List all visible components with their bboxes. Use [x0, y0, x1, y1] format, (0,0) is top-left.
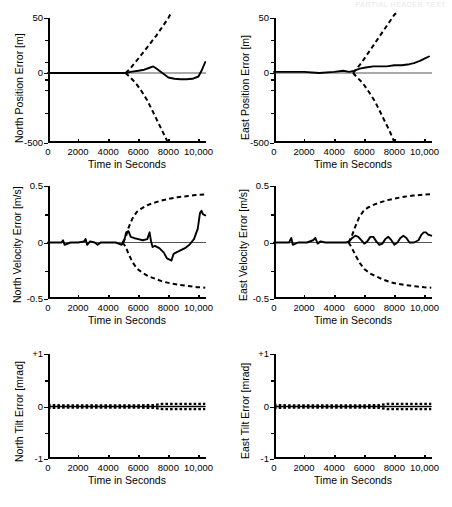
y-axis-title: North Velocity Error [m/s]	[12, 186, 23, 303]
x-tick-label: 4000	[324, 303, 345, 313]
y-tick-label: 0	[38, 68, 43, 78]
x-tick-label: 8000	[158, 147, 179, 157]
x-axis-title: Time in Seconds	[274, 315, 432, 326]
y-tick	[270, 243, 275, 244]
series-plus-sigma	[126, 13, 172, 74]
series-minus-sigma	[348, 243, 431, 288]
x-tick-label: 4000	[98, 463, 119, 473]
series-minus-sigma	[48, 408, 205, 410]
chart-canvas-east-tilt	[274, 354, 432, 459]
x-tick-label: 10,000	[184, 147, 213, 157]
x-tick-label: 6000	[354, 303, 375, 313]
x-tick-label: 8000	[158, 463, 179, 473]
x-tick	[304, 139, 305, 144]
x-tick	[168, 139, 169, 144]
plot-area-north-velocity: Time in Seconds North Velocity Error [m/…	[48, 186, 206, 299]
x-tick	[424, 139, 425, 144]
y-tick-label: -500	[250, 138, 269, 148]
x-tick-label: 2000	[68, 303, 89, 313]
x-tick	[334, 295, 335, 300]
y-tick-label: 0.5	[256, 181, 269, 191]
y-tick-label: -1	[261, 454, 269, 464]
plot-area-north-tilt: Time in Seconds North Tilt Error [mrad] …	[48, 354, 206, 459]
x-tick-label: 0	[45, 463, 50, 473]
y-tick-minor	[271, 62, 275, 63]
x-axis-title: Time in Seconds	[48, 315, 206, 326]
y-tick-minor	[271, 271, 275, 272]
x-tick	[424, 295, 425, 300]
series-minus-sigma	[274, 408, 431, 410]
y-tick-minor	[45, 271, 49, 272]
x-tick	[138, 139, 139, 144]
x-tick	[394, 139, 395, 144]
y-tick-minor	[271, 113, 275, 114]
y-tick-label: 0	[38, 238, 43, 248]
y-axis-title: East Tilt Error [mrad]	[240, 363, 251, 459]
x-tick-label: 10,000	[184, 463, 213, 473]
y-tick-minor	[45, 79, 49, 80]
plot-area-north-position: Time in Seconds North Position Error [m]…	[48, 18, 206, 143]
y-tick	[270, 459, 275, 460]
x-tick-label: 4000	[98, 147, 119, 157]
x-tick-label: 0	[45, 303, 50, 313]
x-tick	[394, 295, 395, 300]
x-tick	[108, 455, 109, 460]
y-tick-label: 0.5	[30, 181, 43, 191]
y-tick-minor	[45, 113, 49, 114]
y-tick-label: -0.5	[27, 294, 43, 304]
series-minus-sigma	[353, 73, 396, 143]
x-tick	[168, 455, 169, 460]
x-tick	[78, 295, 79, 300]
series-minus-sigma	[126, 73, 170, 143]
x-tick-label: 8000	[384, 147, 405, 157]
series-error	[48, 62, 205, 79]
x-tick	[108, 295, 109, 300]
y-tick-label: -1	[35, 454, 43, 464]
panel-east-velocity-error: Time in Seconds East Velocity Error [m/s…	[226, 168, 452, 338]
x-tick-label: 0	[271, 147, 276, 157]
x-tick	[364, 139, 365, 144]
x-tick	[48, 139, 49, 144]
y-tick-label: 0	[264, 68, 269, 78]
y-tick-minor	[45, 90, 49, 91]
x-tick-label: 10,000	[410, 463, 439, 473]
x-tick-label: 2000	[68, 463, 89, 473]
x-tick	[424, 455, 425, 460]
x-tick	[108, 139, 109, 144]
series-error	[274, 57, 429, 74]
x-tick-label: 8000	[384, 303, 405, 313]
plot-area-east-tilt: Time in Seconds East Tilt Error [mrad] +…	[274, 354, 432, 459]
x-tick-label: 6000	[128, 463, 149, 473]
y-tick-label: 50	[258, 13, 269, 23]
chart-canvas-east-position	[274, 18, 432, 143]
x-tick-label: 2000	[294, 463, 315, 473]
x-tick-label: 6000	[128, 303, 149, 313]
x-axis-title: Time in Seconds	[48, 475, 206, 486]
y-tick	[44, 299, 49, 300]
chart-canvas-north-position	[48, 18, 206, 143]
x-tick-label: 10,000	[410, 303, 439, 313]
y-tick-minor	[45, 433, 49, 434]
x-tick	[198, 455, 199, 460]
y-tick-label: 50	[32, 13, 43, 23]
x-tick-label: 4000	[324, 463, 345, 473]
y-tick	[44, 243, 49, 244]
x-tick	[334, 455, 335, 460]
x-tick	[78, 455, 79, 460]
y-tick-label: +1	[32, 349, 43, 359]
y-tick	[44, 186, 49, 187]
y-tick-minor	[45, 214, 49, 215]
y-tick-minor	[271, 79, 275, 80]
y-axis-title: North Position Error [m]	[14, 33, 25, 143]
y-tick-minor	[45, 380, 49, 381]
y-tick-label: -500	[24, 138, 43, 148]
x-tick-label: 10,000	[184, 303, 213, 313]
series-plus-sigma	[48, 404, 205, 406]
x-tick-label: 4000	[98, 303, 119, 313]
x-tick	[304, 295, 305, 300]
y-tick-label: +1	[258, 349, 269, 359]
y-tick	[44, 18, 49, 19]
x-tick	[334, 139, 335, 144]
x-tick	[48, 455, 49, 460]
x-tick-label: 6000	[128, 147, 149, 157]
